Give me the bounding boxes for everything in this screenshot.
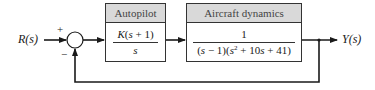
aircraft-dynamics-title: Aircraft dynamics [187,4,301,23]
aircraft-denominator: (s − 1)(s2 + 10s + 41) [197,43,291,57]
autopilot-block: Autopilot K(s + 1) s [105,3,166,62]
autopilot-denominator: s [133,43,137,57]
minus-sign: − [61,48,67,60]
autopilot-title: Autopilot [106,4,165,23]
output-label: Y(s) [342,32,361,47]
aircraft-numerator: 1 [193,28,295,43]
summing-junction [67,32,83,48]
input-label: R(s) [18,32,38,47]
autopilot-numerator: K(s + 1) [113,28,157,43]
aircraft-transfer-function: 1 (s − 1)(s2 + 10s + 41) [187,23,301,61]
plus-sign: + [57,23,63,35]
aircraft-dynamics-block: Aircraft dynamics 1 (s − 1)(s2 + 10s + 4… [186,3,302,62]
autopilot-transfer-function: K(s + 1) s [106,23,165,61]
